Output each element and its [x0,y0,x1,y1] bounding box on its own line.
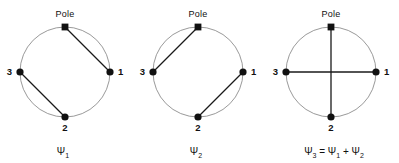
caption-equals: = Ψ [316,146,336,157]
pole-label: Pole [56,9,75,19]
node-pole-marker [62,24,69,31]
caption-plus: + Ψ [340,146,360,157]
node-label-3: 3 [140,66,145,77]
node-pole-marker [195,24,202,31]
chord-1-to-2 [198,72,243,117]
node-label-2: 2 [62,122,67,133]
panel-psi-1: Pole 1 2 3 Ψ1 [0,0,133,163]
node-label-1: 1 [118,66,124,77]
orbital-diagram-figure: Pole 1 2 3 Ψ1 Pole 1 2 3 Ψ2 [0,0,399,163]
node-label-2: 2 [195,122,200,133]
caption-symbol: Ψ [57,146,65,157]
node-1-marker [372,68,379,75]
node-label-3: 3 [273,66,278,77]
node-2-marker [327,113,334,120]
caption-symbol: Ψ [304,146,312,157]
panel-caption: Ψ2 [190,146,202,159]
node-1-marker [239,68,246,75]
node-1-marker [106,68,113,75]
circle-outline [153,27,243,117]
node-3-marker [282,68,289,75]
node-pole-marker [328,24,335,31]
node-3-marker [149,68,156,75]
chord-3-to-2 [20,72,65,117]
pole-label: Pole [322,9,341,19]
node-3-marker [16,68,23,75]
panel-psi-3: Pole 1 2 3 Ψ3 = Ψ1 + Ψ2 [266,0,399,163]
node-label-3: 3 [7,66,12,77]
panel-psi-1-graphic: Pole 1 2 3 Ψ1 [0,0,133,163]
node-2-marker [61,113,68,120]
caption-subscript: 1 [65,152,69,159]
node-label-1: 1 [384,66,390,77]
chord-pole-to-1 [65,27,110,72]
panel-caption: Ψ3 = Ψ1 + Ψ2 [304,146,364,159]
panel-psi-3-graphic: Pole 1 2 3 Ψ3 = Ψ1 + Ψ2 [266,0,399,163]
panel-caption: Ψ1 [57,146,69,159]
circle-outline [20,27,110,117]
panel-psi-2: Pole 1 2 3 Ψ2 [133,0,266,163]
caption-symbol: Ψ [190,146,198,157]
panel-psi-2-graphic: Pole 1 2 3 Ψ2 [133,0,266,163]
pole-label: Pole [189,9,208,19]
caption-term2-subscript: 2 [360,152,364,159]
node-label-2: 2 [328,122,333,133]
caption-subscript: 2 [198,152,202,159]
node-2-marker [194,113,201,120]
chord-pole-to-3 [153,27,198,72]
node-label-1: 1 [251,66,257,77]
